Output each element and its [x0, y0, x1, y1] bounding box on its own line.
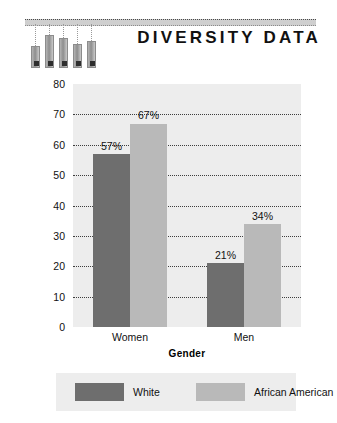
deco-bar-stem — [63, 24, 65, 38]
bar — [244, 224, 281, 327]
y-axis-tick: 10 — [25, 291, 65, 303]
deco-bar — [59, 24, 68, 68]
deco-bar-tube — [87, 41, 96, 68]
bar — [130, 124, 167, 328]
legend-swatch — [75, 383, 124, 401]
deco-bar-tube — [59, 38, 68, 68]
plot-area — [73, 84, 301, 327]
page-header: DIVERSITY DATA — [0, 0, 337, 72]
deco-bar-bulb — [76, 61, 81, 66]
y-axis-tick: 30 — [25, 230, 65, 242]
bar — [207, 263, 244, 327]
deco-bar-bulb — [90, 61, 95, 66]
bar — [93, 154, 130, 327]
x-axis-tick: Men — [204, 331, 284, 343]
deco-bar-stem — [77, 24, 79, 44]
bar-value-label: 21% — [201, 249, 250, 261]
gridline — [73, 114, 301, 115]
deco-bar-tube — [45, 35, 54, 68]
deco-bar-bulb — [34, 61, 39, 66]
chart-legend: WhiteAfrican American — [56, 373, 296, 411]
y-axis-tick: 50 — [25, 169, 65, 181]
deco-bar — [31, 24, 40, 68]
deco-bar-stem — [35, 24, 37, 46]
deco-bar — [73, 24, 82, 68]
bar-value-label: 67% — [124, 109, 173, 121]
y-axis-tick: 70 — [25, 108, 65, 120]
x-axis-label: Gender — [73, 348, 301, 359]
y-axis-tick: 20 — [25, 260, 65, 272]
deco-bar — [87, 24, 96, 68]
page-title: DIVERSITY DATA — [137, 28, 321, 48]
deco-bar-bulb — [62, 61, 67, 66]
bar-value-label: 34% — [238, 210, 287, 222]
y-axis-tick: 0 — [25, 321, 65, 333]
deco-bar-stem — [91, 24, 93, 41]
legend-label: White — [133, 386, 160, 398]
x-axis-tick: Women — [90, 331, 170, 343]
deco-bar — [45, 24, 54, 68]
deco-bar-tube — [31, 46, 40, 68]
deco-bar-bulb — [48, 61, 53, 66]
legend-item: White — [75, 383, 160, 401]
legend-item: African American — [196, 383, 333, 401]
deco-bar-tube — [73, 44, 82, 68]
bar-value-label: 57% — [87, 140, 136, 152]
y-axis-tick: 60 — [25, 139, 65, 151]
legend-swatch — [196, 383, 245, 401]
deco-bar-stem — [49, 24, 51, 35]
thermometer-bars-decoration-icon — [31, 24, 97, 68]
bar-chart: Percent Afraid to Walk Alone at Night Ge… — [0, 72, 337, 362]
y-axis-tick: 80 — [25, 78, 65, 90]
y-axis-tick: 40 — [25, 200, 65, 212]
legend-label: African American — [254, 386, 333, 398]
